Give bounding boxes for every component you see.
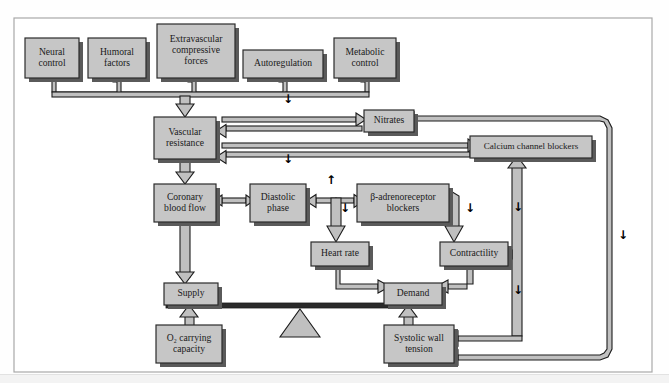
node-extravascular[interactable]: Extravascularcompressiveforces xyxy=(157,24,239,82)
node-label: compressive xyxy=(172,44,220,55)
node-label: factors xyxy=(104,57,130,68)
node-label: Metabolic xyxy=(346,46,385,57)
node-label: Contractility xyxy=(450,247,499,258)
connector-calcium-to-vascular xyxy=(226,152,470,157)
node-metabolic[interactable]: Metaboliccontrol xyxy=(334,38,400,82)
node-label: tension xyxy=(405,343,433,354)
connector-vascular-to-nitrates xyxy=(222,117,356,122)
arrow-down-far-right: ↓ xyxy=(618,228,628,242)
node-label: Supply xyxy=(177,287,204,298)
node-vascular[interactable]: Vascularresistance xyxy=(154,117,220,163)
node-label: resistance xyxy=(166,137,204,148)
node-label: Extravascular xyxy=(170,33,224,44)
connector-nitrates-to-vascular xyxy=(226,126,362,131)
node-label: control xyxy=(38,57,66,68)
arrow-down-contractility: ↓ xyxy=(465,201,475,215)
connector-spine-to-systolic-upper xyxy=(458,336,522,341)
arrow-up-diastolic: ↑ xyxy=(326,173,336,187)
node-label: Humoral xyxy=(100,46,134,57)
arrow-down-calcium-mid: ↓ xyxy=(513,200,523,214)
connector-spine-to-calcium xyxy=(512,166,522,336)
page-bottom-strip xyxy=(0,374,669,383)
connector-input-bus-rail xyxy=(52,92,369,97)
node-label: O₂ carrying xyxy=(167,332,212,343)
node-label: Vascular xyxy=(168,126,202,137)
node-label: phase xyxy=(267,202,289,213)
connector-vascular-to-calcium xyxy=(222,143,468,148)
node-coronary[interactable]: Coronaryblood flow xyxy=(154,184,220,226)
node-autoreg[interactable]: Autoregulation xyxy=(243,50,327,82)
connector-coronary-diastolic xyxy=(222,198,246,203)
node-label: Heart rate xyxy=(321,247,359,258)
arrow-down-heartrate: ↓ xyxy=(340,201,350,215)
node-demand[interactable]: Demand xyxy=(384,283,446,309)
node-label: β-adrenoreceptor xyxy=(370,191,436,202)
arrow-down-vascular-top: ↓ xyxy=(283,92,293,106)
node-label: Nitrates xyxy=(374,114,405,125)
node-diastolic[interactable]: Diastolicphase xyxy=(250,184,310,226)
node-humoral[interactable]: Humoralfactors xyxy=(88,38,150,82)
connector-coronary-to-supply xyxy=(180,222,190,277)
node-neural[interactable]: Neuralcontrol xyxy=(25,38,83,82)
node-label: capacity xyxy=(173,343,205,354)
node-o2carrying[interactable]: O₂ carryingcapacity xyxy=(156,325,226,367)
node-betablock[interactable]: β-adrenoreceptorblockers xyxy=(357,184,453,226)
node-label: Coronary xyxy=(167,191,203,202)
node-supply[interactable]: Supply xyxy=(164,283,222,309)
node-label: Diastolic xyxy=(261,191,296,202)
node-label: Demand xyxy=(397,287,430,298)
node-nitrates[interactable]: Nitrates xyxy=(364,110,418,136)
node-label: blood flow xyxy=(164,202,206,213)
arrow-down-calcium-low: ↓ xyxy=(513,283,523,297)
node-label: forces xyxy=(184,55,208,66)
node-calcium[interactable]: Calcium channel blockers xyxy=(470,136,596,162)
node-label: Systolic wall xyxy=(394,332,444,343)
node-label: blockers xyxy=(387,202,420,213)
node-contractility[interactable]: Contractility xyxy=(440,242,512,270)
node-label: Neural xyxy=(39,46,65,57)
arrow-down-vascular-bottom: ↓ xyxy=(283,152,293,166)
node-label: Calcium channel blockers xyxy=(484,141,579,151)
node-label: control xyxy=(351,57,379,68)
node-label: Autoregulation xyxy=(254,57,312,68)
node-systolic[interactable]: Systolic walltension xyxy=(384,325,458,367)
node-heartrate[interactable]: Heart rate xyxy=(311,242,373,270)
